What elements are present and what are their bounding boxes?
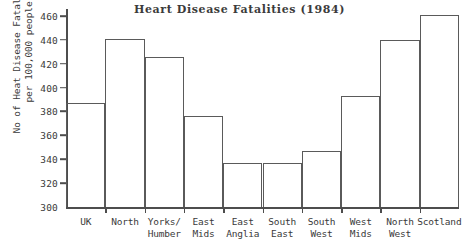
x-tick-mark xyxy=(380,207,382,213)
bar xyxy=(145,57,184,207)
y-tick-mark xyxy=(60,63,66,65)
x-tick-mark xyxy=(223,207,225,213)
x-tick-mark xyxy=(184,207,186,213)
bar xyxy=(184,116,223,207)
chart-title: Heart Disease Fatalities (1984) xyxy=(134,3,345,16)
bar-chart: Heart Disease Fatalities (1984) No of He… xyxy=(0,0,462,251)
y-axis-label-line-2: per 100,000 people xyxy=(23,1,35,102)
x-tick-mark xyxy=(302,207,304,213)
y-tick-mark xyxy=(60,87,66,89)
y-axis-label-line-1: No of Heat Disease Fatalities xyxy=(11,0,23,133)
y-tick-label: 460 xyxy=(40,10,58,21)
y-tick-label: 320 xyxy=(40,178,58,189)
y-tick-label: 380 xyxy=(40,106,58,117)
bar xyxy=(380,40,419,207)
x-tick-mark xyxy=(341,207,343,213)
bar xyxy=(420,15,459,207)
y-tick-label: 300 xyxy=(40,202,58,213)
y-tick-label: 420 xyxy=(40,58,58,69)
y-tick-label: 440 xyxy=(40,34,58,45)
y-tick-label: 340 xyxy=(40,154,58,165)
bar xyxy=(263,163,302,207)
y-axis-label: No of Heat Disease Fatalities per 100,00… xyxy=(9,0,37,137)
x-tick-mark xyxy=(105,207,107,213)
x-tick-mark xyxy=(420,207,422,213)
x-tick-mark xyxy=(145,207,147,213)
bar xyxy=(223,163,262,207)
bar xyxy=(66,103,105,207)
x-category-label: Scotland xyxy=(414,216,462,228)
y-tick-mark xyxy=(60,39,66,41)
x-tick-mark xyxy=(263,207,265,213)
y-tick-label: 400 xyxy=(40,82,58,93)
y-tick-label: 360 xyxy=(40,130,58,141)
bar xyxy=(105,39,144,207)
bar xyxy=(341,96,380,207)
y-tick-mark xyxy=(60,15,66,17)
bar xyxy=(302,151,341,207)
